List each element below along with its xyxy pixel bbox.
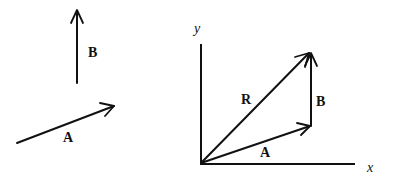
- vector-r-shaft: [201, 53, 309, 163]
- vector-diagram: B A y x A B R: [0, 0, 397, 180]
- vector-b-standalone: [71, 10, 83, 83]
- y-axis-label: y: [192, 21, 201, 36]
- vector-b-label: B: [88, 45, 97, 60]
- x-axis-label: x: [366, 160, 374, 175]
- vector-r-label: R: [241, 92, 252, 107]
- vector-b-label: B: [316, 94, 325, 109]
- vector-a-label: A: [260, 145, 271, 160]
- vector-r: [201, 53, 309, 163]
- left-panel: B A: [17, 10, 114, 145]
- vector-a: [201, 123, 310, 163]
- right-panel: y x A B R: [192, 21, 374, 175]
- vector-a-label: A: [63, 130, 74, 145]
- vector-a-shaft: [201, 126, 310, 163]
